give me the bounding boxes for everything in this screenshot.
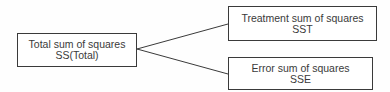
node-symbol: SS(Total)	[55, 50, 98, 61]
node-label: Error sum of squares	[251, 63, 349, 74]
node-error-sum-of-squares: Error sum of squares SSE	[228, 57, 373, 90]
diagram-canvas: Total sum of squares SS(Total) Treatment…	[0, 0, 390, 92]
edge-total-to-sse	[137, 49, 228, 74]
node-treatment-sum-of-squares: Treatment sum of squares SST	[228, 6, 377, 41]
node-symbol: SSE	[290, 74, 311, 85]
node-total-sum-of-squares: Total sum of squares SS(Total)	[17, 33, 137, 67]
node-symbol: SST	[292, 24, 312, 35]
node-label: Treatment sum of squares	[241, 13, 363, 24]
edge-total-to-sst	[137, 24, 228, 49]
